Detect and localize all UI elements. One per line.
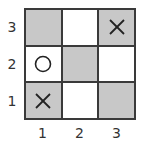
game-board xyxy=(24,8,136,120)
col-label-2: 2 xyxy=(61,125,98,141)
cell-r2-c3[interactable] xyxy=(98,46,135,83)
cell-r3-c1[interactable] xyxy=(25,9,62,46)
row-label-1: 1 xyxy=(5,93,19,109)
cell-r3-c2[interactable] xyxy=(62,9,99,46)
row-label-3: 3 xyxy=(5,19,19,35)
cell-r1-c2[interactable] xyxy=(62,82,99,119)
o-mark-icon xyxy=(34,55,52,73)
col-label-3: 3 xyxy=(98,125,135,141)
col-label-1: 1 xyxy=(24,125,61,141)
cell-r1-c1[interactable] xyxy=(25,82,62,119)
x-mark-icon xyxy=(108,18,126,36)
cell-r2-c2[interactable] xyxy=(62,46,99,83)
x-mark-icon xyxy=(34,92,52,110)
cell-r3-c3[interactable] xyxy=(98,9,135,46)
cell-r2-c1[interactable] xyxy=(25,46,62,83)
cell-r1-c3[interactable] xyxy=(98,82,135,119)
row-label-2: 2 xyxy=(5,56,19,72)
